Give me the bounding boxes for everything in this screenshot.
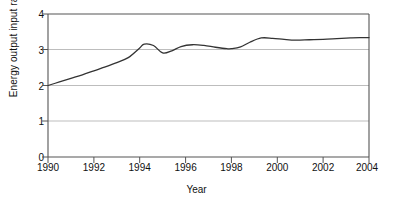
x-tick-label: 1994 (129, 162, 151, 173)
y-axis-ticks (42, 14, 48, 157)
x-axis-label: Year (0, 184, 393, 195)
x-tick-label: 2002 (312, 162, 334, 173)
gridlines (48, 50, 369, 122)
chart-container: Energy output input ratio 0 1 2 3 4 (0, 0, 393, 206)
x-tick-label: 2004 (356, 162, 378, 173)
x-tick-label: 1990 (37, 162, 59, 173)
data-line-series (48, 38, 369, 86)
plot-area (0, 0, 393, 206)
x-tick-label: 2000 (266, 162, 288, 173)
x-tick-label: 1992 (83, 162, 105, 173)
x-tick-label: 1998 (220, 162, 242, 173)
x-tick-label: 1996 (174, 162, 196, 173)
